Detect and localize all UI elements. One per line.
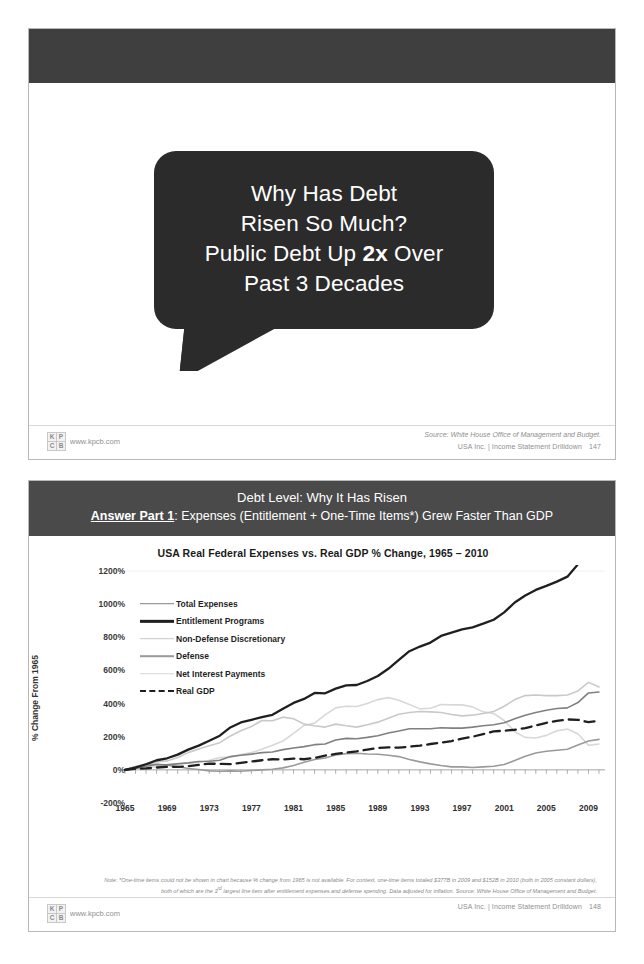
footer-page-number: 147 [589,443,601,450]
slide-header-answer-text: : Expenses (Entitlement + One-Time Items… [174,509,553,523]
bubble-line-3: Public Debt Up 2x Over [172,239,476,269]
legend-swatch-icon [140,686,174,696]
legend-label: Net Interest Payments [174,669,265,679]
logo-letter-p: P [57,905,65,913]
legend-swatch-icon [140,599,174,609]
plot-frame: % Change From 1965 1200%1000%800%600%400… [41,565,605,845]
legend-item[interactable]: Net Interest Payments [140,665,370,683]
footer-right-block: USA Inc. | Income Statement Drilldown148 [458,901,601,913]
logo-letter-k: K [48,905,56,913]
slide-147: Why Has Debt Risen So Much? Public Debt … [28,28,616,460]
footer-deck-text: USA Inc. | Income Statement Drilldown [458,443,582,450]
footer-page-number: 148 [589,903,601,910]
screenshot-page: Why Has Debt Risen So Much? Public Debt … [0,0,644,964]
legend-item[interactable]: Real GDP [140,683,370,701]
bubble-line-2: Risen So Much? [172,209,476,239]
slide-148: Debt Level: Why It Has Risen Answer Part… [28,480,616,932]
logo-letter-b: B [57,914,65,922]
bubble-line-1: Why Has Debt [172,179,476,209]
legend-label: Non-Defense Discretionary [174,634,285,644]
footer-url-link[interactable]: www.kpcb.com [70,437,120,446]
chart-title: USA Real Federal Expenses vs. Real GDP %… [41,547,605,559]
slide-header-band: Debt Level: Why It Has Risen Answer Part… [29,481,615,536]
logo-letter-k: K [48,433,56,441]
speech-bubble-tail [180,329,274,371]
legend-swatch-icon [140,651,174,661]
legend-label: Total Expenses [174,599,238,609]
chart-container: USA Real Federal Expenses vs. Real GDP %… [41,541,605,871]
footer-deck-name: USA Inc. | Income Statement Drilldown148 [458,901,601,913]
footer-deck-text: USA Inc. | Income Statement Drilldown [458,903,582,910]
legend-item[interactable]: Total Expenses [140,595,370,613]
footer-deck-name: USA Inc. | Income Statement Drilldown147 [424,441,601,453]
kpcb-logo-icon: K P C B [47,432,66,451]
series-line-net-interest-payments [125,698,599,770]
slide-header-subtitle: Answer Part 1: Expenses (Entitlement + O… [29,507,615,526]
footer-url-link[interactable]: www.kpcb.com [70,909,120,918]
series-line-total-expenses [125,692,599,770]
y-axis-label: % Change From 1965 [30,638,40,758]
legend-swatch-icon [140,616,174,626]
series-line-defense [125,739,599,771]
legend-swatch-icon [140,634,174,644]
footer-right-block: Source: White House Office of Management… [424,429,601,453]
chart-legend: Total ExpensesEntitlement ProgramsNon-De… [140,595,370,700]
legend-label: Defense [174,651,209,661]
speech-bubble: Why Has Debt Risen So Much? Public Debt … [154,151,494,329]
legend-label: Real GDP [174,686,215,696]
bubble-line-3-post: Over [388,241,444,266]
legend-item[interactable]: Entitlement Programs [140,613,370,631]
bubble-line-4: Past 3 Decades [172,269,476,299]
slide-top-band [29,29,615,83]
legend-swatch-icon [140,669,174,679]
bubble-line-3-emphasis: 2x [363,241,388,266]
legend-item[interactable]: Defense [140,648,370,666]
legend-item[interactable]: Non-Defense Discretionary [140,630,370,648]
footnote-ordinal-suffix: rd [218,886,222,891]
logo-letter-p: P [57,433,65,441]
logo-letter-b: B [57,442,65,450]
legend-label: Entitlement Programs [174,616,264,626]
footer-source-note: Source: White House Office of Management… [424,429,601,441]
kpcb-logo-icon: K P C B [47,904,66,923]
slide-footer: K P C B www.kpcb.com USA Inc. | Income S… [29,897,615,931]
logo-letter-c: C [48,914,56,922]
logo-letter-c: C [48,442,56,450]
speech-bubble-body: Why Has Debt Risen So Much? Public Debt … [154,151,494,329]
bubble-line-3-pre: Public Debt Up [205,241,363,266]
slide-header-answer-label: Answer Part 1 [91,509,174,523]
slide-footer: K P C B www.kpcb.com Source: White House… [29,425,615,459]
slide-header-title: Debt Level: Why It Has Risen [29,489,615,507]
chart-footnote: Note: *One-time items could not be shown… [95,876,597,895]
